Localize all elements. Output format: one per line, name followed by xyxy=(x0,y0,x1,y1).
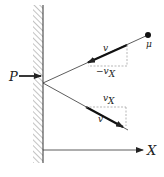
x-axis-label: X xyxy=(146,143,157,158)
collision-diagram: P μ v −vX vX v X xyxy=(0,0,164,177)
wall xyxy=(33,5,43,163)
force-label: P xyxy=(8,69,18,84)
outgoing-component-label: vX xyxy=(103,93,115,106)
particle-dot xyxy=(145,32,151,38)
incoming-component-label: −vX xyxy=(96,66,116,79)
outgoing-trajectory xyxy=(43,83,128,130)
outgoing-velocity-label: v xyxy=(98,114,103,124)
incoming-velocity-label: v xyxy=(103,43,108,53)
mass-label: μ xyxy=(146,39,152,49)
